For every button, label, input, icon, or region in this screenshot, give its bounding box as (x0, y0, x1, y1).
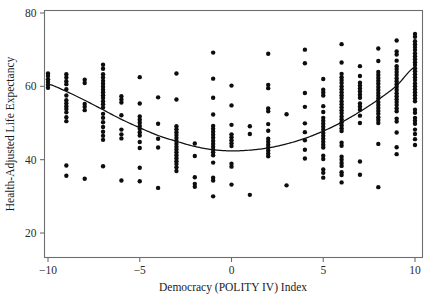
data-point (101, 134, 105, 138)
data-point (64, 115, 68, 119)
data-point (101, 62, 105, 66)
data-point (174, 71, 178, 75)
data-point (413, 35, 417, 39)
data-point (266, 52, 270, 56)
data-point (156, 95, 160, 99)
data-point (266, 129, 270, 133)
data-point (174, 169, 178, 173)
data-point (83, 108, 87, 112)
data-point (119, 113, 123, 117)
data-point (413, 122, 417, 126)
data-point (413, 99, 417, 103)
data-point (321, 104, 325, 108)
data-point (138, 75, 142, 79)
data-point (101, 130, 105, 134)
data-point (376, 121, 380, 125)
data-point (229, 164, 233, 168)
data-point (303, 47, 307, 51)
data-point (321, 110, 325, 114)
data-point (303, 91, 307, 95)
data-point (101, 138, 105, 142)
data-point (413, 132, 417, 136)
data-point (358, 96, 362, 100)
data-point (119, 127, 123, 131)
data-point (156, 145, 160, 149)
data-point (321, 175, 325, 179)
y-tick-label: 20 (25, 227, 37, 239)
chart-figure: −10−50510 20406080 Democracy (POLITY IV)… (0, 0, 431, 298)
data-point (339, 164, 343, 168)
data-point (83, 177, 87, 181)
data-point (358, 64, 362, 68)
data-point (358, 173, 362, 177)
chart-background (0, 0, 431, 298)
y-tick-label: 80 (25, 7, 37, 19)
data-point (119, 178, 123, 182)
data-point (229, 182, 233, 186)
data-point (376, 142, 380, 146)
data-point (101, 120, 105, 124)
data-point (64, 163, 68, 167)
data-point (376, 185, 380, 189)
data-point (64, 82, 68, 86)
data-point (138, 146, 142, 150)
data-point (266, 154, 270, 158)
data-point (156, 137, 160, 141)
data-point (266, 122, 270, 126)
data-point (248, 124, 252, 128)
data-point (321, 171, 325, 175)
data-point (229, 123, 233, 127)
x-tick-label: −5 (134, 264, 146, 276)
data-point (303, 130, 307, 134)
data-point (193, 141, 197, 145)
data-point (138, 101, 142, 105)
data-point (174, 97, 178, 101)
data-point (101, 164, 105, 168)
data-point (138, 140, 142, 144)
data-point (156, 186, 160, 190)
data-point (229, 144, 233, 148)
data-point (101, 116, 105, 120)
data-point (303, 61, 307, 65)
data-point (394, 145, 398, 149)
data-point (394, 58, 398, 62)
data-point (394, 38, 398, 42)
data-point (303, 105, 307, 109)
x-tick-label: −10 (39, 264, 57, 276)
data-point (119, 100, 123, 104)
data-point (101, 112, 105, 116)
data-point (248, 193, 252, 197)
x-tick-label: 5 (320, 264, 326, 276)
data-point (211, 112, 215, 116)
data-point (413, 111, 417, 115)
data-point (156, 122, 160, 126)
data-point (64, 174, 68, 178)
data-point (211, 76, 215, 80)
data-point (138, 179, 142, 183)
data-point (193, 154, 197, 158)
data-point (101, 67, 105, 71)
data-point (376, 46, 380, 50)
data-point (211, 153, 215, 157)
data-point (339, 180, 343, 184)
data-point (211, 50, 215, 54)
data-point (394, 109, 398, 113)
data-point (321, 77, 325, 81)
data-point (339, 173, 343, 177)
data-point (64, 93, 68, 97)
data-point (394, 152, 398, 156)
data-point (211, 160, 215, 164)
data-point (46, 86, 50, 90)
data-point (303, 121, 307, 125)
data-point (394, 52, 398, 56)
data-point (284, 112, 288, 116)
data-point (303, 148, 307, 152)
data-point (211, 96, 215, 100)
data-point (394, 119, 398, 123)
x-axis-title: Democracy (POLITY IV) Index (159, 281, 307, 294)
data-point (138, 133, 142, 137)
data-point (394, 130, 398, 134)
data-point (119, 132, 123, 136)
data-point (413, 137, 417, 141)
data-point (413, 127, 417, 131)
